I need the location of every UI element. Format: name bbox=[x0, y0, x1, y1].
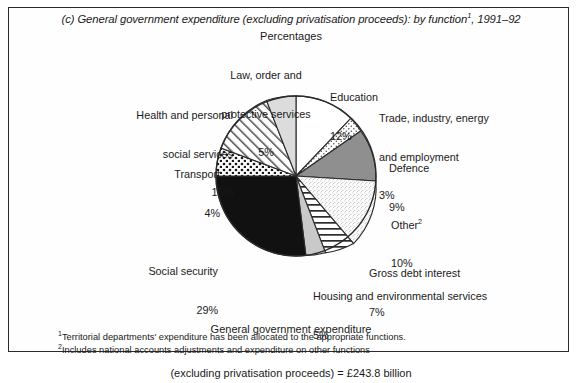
slice-label-other-text: Other bbox=[391, 219, 418, 231]
slice-label-trade-line1: Trade, industry, energy bbox=[379, 112, 539, 125]
caption-line-2: (excluding privatisation proceeds) = £24… bbox=[170, 366, 411, 381]
slice-label-transport-text: Transport bbox=[110, 168, 220, 181]
slice-label-health-line1: Health and personal bbox=[88, 109, 233, 122]
slice-label-transport: Transport 4% bbox=[110, 143, 220, 232]
slice-label-social-security-text: Social security bbox=[88, 265, 218, 278]
footnote-2: 2Includes national accounts adjustments … bbox=[58, 343, 370, 356]
footnote-2-text: Includes national accounts adjustments a… bbox=[62, 345, 370, 355]
footnote-1: 1Territorial departments' expenditure ha… bbox=[58, 330, 406, 343]
slice-label-other-footnote-marker: 2 bbox=[418, 217, 422, 226]
slice-label-law-order-line1: Law, order and bbox=[196, 69, 336, 82]
footnote-1-text: Territorial departments' expenditure has… bbox=[62, 332, 406, 342]
slice-label-defence-text: Defence bbox=[389, 162, 489, 175]
slice-value-transport: 4% bbox=[110, 207, 220, 220]
